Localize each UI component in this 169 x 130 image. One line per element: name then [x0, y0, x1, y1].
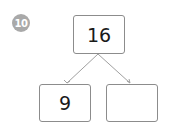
connector-right	[98, 54, 130, 83]
part-left-value: 9	[59, 92, 71, 114]
connector-left	[67, 54, 98, 83]
part-box-left: 9	[39, 84, 91, 122]
part-box-right-answer[interactable]	[106, 84, 158, 122]
whole-box: 16	[73, 15, 125, 54]
whole-value: 16	[87, 24, 111, 46]
